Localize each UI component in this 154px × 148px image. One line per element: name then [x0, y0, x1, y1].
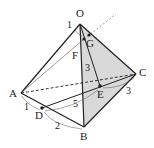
label-f: F: [72, 50, 78, 61]
measure-ec: 3: [126, 86, 131, 96]
measure-db: 2: [55, 121, 60, 131]
measure-fe: 3: [85, 63, 90, 73]
measure-of: 1: [67, 20, 72, 30]
measure-de: 5: [73, 99, 78, 109]
diagram-canvas: [0, 0, 154, 148]
measure-ad: 1: [24, 102, 29, 112]
label-g: G: [86, 38, 94, 49]
label-c: C: [139, 67, 146, 78]
label-b: B: [80, 131, 87, 142]
tetrahedron-diagram: O A B C D E F G 1 3 1 2 5 3: [0, 0, 154, 148]
label-a: A: [9, 88, 17, 99]
label-o: O: [76, 8, 84, 19]
label-d: D: [35, 110, 43, 121]
segment-af: [21, 39, 84, 93]
arc-db: [44, 112, 82, 129]
label-e: E: [97, 89, 104, 100]
